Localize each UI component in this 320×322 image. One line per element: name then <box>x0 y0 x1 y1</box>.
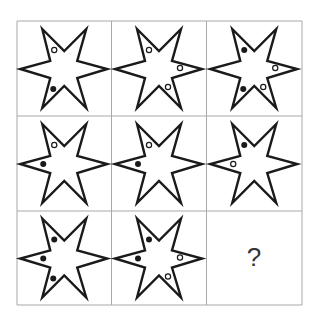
filled-circle-icon-l <box>135 256 141 262</box>
filled-circle-icon-l <box>135 161 141 167</box>
star-icon <box>115 29 202 108</box>
cell-r3c1 <box>20 219 107 298</box>
star-icon <box>20 219 107 298</box>
filled-circle-icon-ll <box>50 276 56 282</box>
question-mark: ? <box>247 244 261 270</box>
cell-r2c3 <box>210 124 297 203</box>
puzzle-grid <box>0 0 320 322</box>
filled-circle-icon-ul <box>146 237 152 243</box>
open-circle-icon-l <box>231 161 236 166</box>
filled-circle-icon-l <box>40 161 46 167</box>
star-icon <box>210 29 297 108</box>
open-circle-icon-r <box>273 65 278 70</box>
open-circle-icon-r <box>177 255 182 260</box>
open-circle-icon-lr <box>165 274 170 279</box>
cell-r3c2 <box>115 219 202 298</box>
open-circle-icon-ul <box>52 47 57 52</box>
open-circle-icon-r <box>177 65 182 70</box>
filled-circle-icon-ul <box>241 142 247 148</box>
cell-r2c1 <box>20 124 107 203</box>
cell-r2c2 <box>115 124 202 203</box>
star-icon <box>20 29 107 108</box>
filled-circle-icon-ll <box>50 86 56 92</box>
open-circle-icon-ul <box>146 47 151 52</box>
star-icon <box>115 124 202 203</box>
star-icon <box>210 124 297 203</box>
filled-circle-icon-ul <box>51 237 57 243</box>
open-circle-icon-ul <box>146 142 151 147</box>
filled-circle-icon-l <box>40 256 46 262</box>
open-circle-icon-lr <box>261 84 266 89</box>
open-circle-icon-ul <box>52 142 57 147</box>
cell-r1c2 <box>115 29 202 108</box>
open-circle-icon-lr <box>165 84 170 89</box>
star-icon <box>115 219 202 298</box>
cell-r1c3 <box>210 29 297 108</box>
star-icon <box>20 124 107 203</box>
filled-circle-icon-ll <box>240 86 246 92</box>
filled-circle-icon-ul <box>241 47 247 53</box>
cell-r1c1 <box>20 29 107 108</box>
